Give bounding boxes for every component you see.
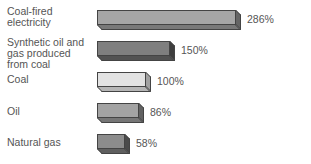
bar — [97, 10, 236, 25]
bar-row: Coal100% — [0, 62, 311, 93]
bar-row: Natural gas58% — [0, 124, 311, 155]
bar-row: Synthetic oil andgas producedfrom coal15… — [0, 31, 311, 62]
category-label: Coal — [7, 74, 29, 85]
category-label: Oil — [7, 106, 20, 117]
bar — [97, 41, 170, 56]
bar — [97, 103, 139, 118]
category-label: electricity — [7, 17, 51, 28]
value-label: 58% — [136, 137, 157, 149]
bar — [97, 72, 146, 87]
category-label: Natural gas — [7, 137, 61, 148]
value-label: 286% — [247, 13, 274, 25]
bar-row: Coal-firedelectricity286% — [0, 0, 311, 31]
value-label: 86% — [150, 106, 171, 118]
value-label: 150% — [181, 44, 208, 56]
value-label: 100% — [157, 75, 184, 87]
bar — [97, 134, 125, 149]
bar-row: Oil86% — [0, 93, 311, 124]
